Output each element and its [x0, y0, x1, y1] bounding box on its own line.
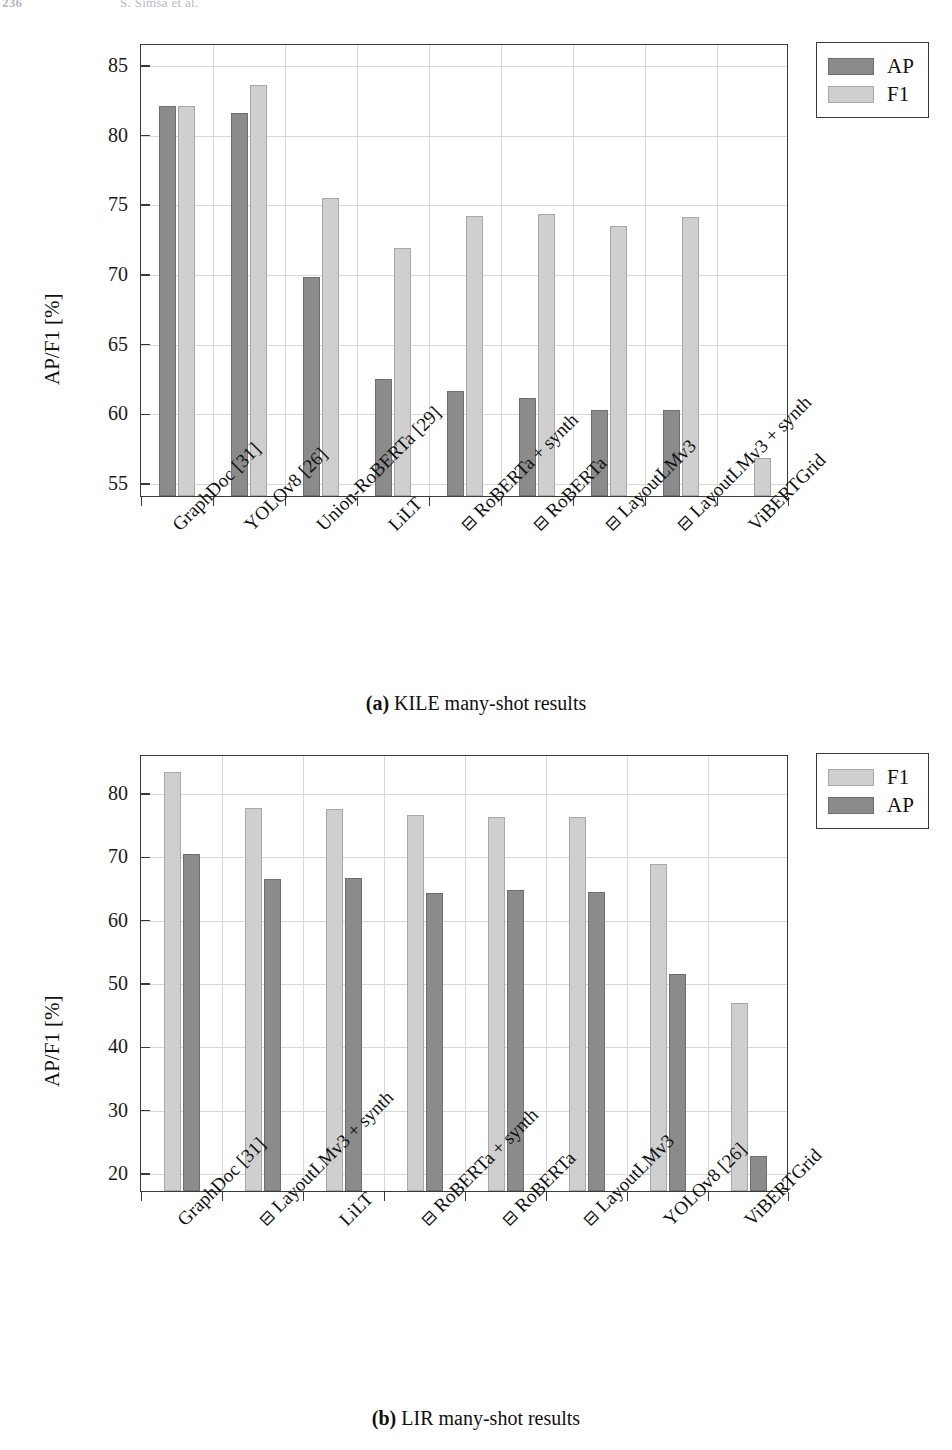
legend-label-ap: AP	[887, 56, 914, 77]
bar-f1	[250, 85, 267, 496]
x-gridline	[213, 45, 214, 496]
y-axis-title-lir: AP/F1 [%]	[40, 995, 65, 1087]
bar-ap	[447, 391, 464, 496]
y-gridline	[141, 921, 787, 922]
y-tick-label: 60	[108, 403, 128, 423]
figure-caption-lir: (b) LIR many-shot results	[0, 1407, 952, 1430]
legend-entry-f1: F1	[828, 763, 914, 791]
y-tick-mark	[141, 793, 150, 795]
x-gridline	[645, 45, 646, 496]
bar-ap	[426, 893, 443, 1191]
y-gridline	[141, 1111, 787, 1112]
x-tick-mark	[429, 497, 430, 506]
x-gridline	[708, 756, 709, 1191]
bar-ap	[159, 106, 176, 496]
y-tick-label: 20	[108, 1163, 128, 1183]
y-tick-mark	[141, 920, 150, 922]
legend-lir: F1 AP	[816, 753, 929, 829]
bar-f1	[610, 226, 627, 496]
y-tick-label: 65	[108, 334, 128, 354]
plot-area-lir	[140, 755, 788, 1192]
legend-entry-ap: AP	[828, 791, 914, 819]
y-gridline	[141, 984, 787, 985]
y-tick-label: 50	[108, 973, 128, 993]
bar-f1	[407, 815, 424, 1191]
running-header: 236 Š. Šimsa et al.	[0, 0, 952, 11]
x-gridline	[357, 45, 358, 496]
y-tick-mark	[141, 1047, 150, 1049]
y-tick-mark	[141, 483, 150, 485]
y-tick-mark	[141, 204, 150, 206]
y-tick-label: 85	[108, 55, 128, 75]
y-tick-mark	[141, 344, 150, 346]
y-tick-label: 70	[108, 846, 128, 866]
document-box-icon: ⊟	[457, 511, 481, 535]
y-gridline	[141, 66, 787, 67]
bar-ap	[231, 113, 248, 496]
bar-ap	[588, 892, 605, 1191]
legend-entry-f1: F1	[828, 80, 914, 108]
y-tick-mark	[141, 135, 150, 137]
bar-ap	[669, 974, 686, 1191]
y-gridline	[141, 1047, 787, 1048]
y-axis-title-kile: AP/F1 [%]	[40, 293, 65, 385]
document-box-icon: ⊟	[497, 1206, 521, 1230]
x-gridline	[501, 45, 502, 496]
document-box-icon: ⊟	[673, 511, 697, 535]
y-tick-label: 75	[108, 194, 128, 214]
x-gridline	[465, 756, 466, 1191]
y-tick-mark	[141, 1173, 150, 1175]
x-tick-mark	[141, 497, 142, 506]
legend-swatch-f1-icon	[828, 86, 874, 103]
document-box-icon: ⊟	[254, 1206, 278, 1230]
legend-swatch-ap-icon	[828, 797, 874, 814]
x-gridline	[546, 756, 547, 1191]
y-tick-label: 55	[108, 473, 128, 493]
x-axis-label: LiLT	[384, 493, 427, 536]
document-box-icon: ⊟	[601, 511, 625, 535]
page-folio: 236	[2, 0, 22, 11]
x-gridline	[627, 756, 628, 1191]
document-box-icon: ⊟	[578, 1206, 602, 1230]
running-authors: Š. Šimsa et al.	[120, 0, 199, 11]
plot-area-kile	[140, 44, 788, 497]
bar-ap	[750, 1156, 767, 1191]
y-tick-mark	[141, 983, 150, 985]
caption-tag-a: (a)	[366, 692, 389, 714]
document-box-icon: ⊟	[416, 1206, 440, 1230]
bar-f1	[569, 817, 586, 1191]
x-gridline	[384, 756, 385, 1191]
legend-entry-ap: AP	[828, 52, 914, 80]
bar-ap	[183, 854, 200, 1191]
y-tick-label: 30	[108, 1100, 128, 1120]
legend-label-f1: F1	[887, 84, 909, 105]
legend-label-ap: AP	[887, 795, 914, 816]
x-gridline	[717, 45, 718, 496]
legend-swatch-f1-icon	[828, 769, 874, 786]
y-tick-mark	[141, 414, 150, 416]
y-tick-label: 80	[108, 125, 128, 145]
y-tick-mark	[141, 857, 150, 859]
caption-text-a: KILE many-shot results	[394, 692, 586, 714]
legend-label-f1: F1	[887, 767, 909, 788]
figure-kile-many-shot: AP/F1 [%] AP F1 (a) KILE many-shot resul…	[0, 30, 952, 720]
y-tick-label: 80	[108, 783, 128, 803]
x-gridline	[303, 756, 304, 1191]
figure-caption-kile: (a) KILE many-shot results	[0, 692, 952, 715]
document-box-icon: ⊟	[529, 511, 553, 535]
y-tick-label: 40	[108, 1036, 128, 1056]
figure-lir-many-shot: AP/F1 [%] F1 AP (b) LIR many-shot result…	[0, 742, 952, 1450]
x-tick-mark	[141, 1192, 142, 1201]
bar-f1	[164, 772, 181, 1191]
bar-f1	[178, 106, 195, 496]
y-tick-mark	[141, 65, 150, 67]
y-tick-mark	[141, 274, 150, 276]
y-gridline	[141, 857, 787, 858]
x-tick-mark	[384, 1192, 385, 1201]
y-gridline	[141, 794, 787, 795]
bar-f1	[466, 216, 483, 496]
y-tick-mark	[141, 1110, 150, 1112]
legend-swatch-ap-icon	[828, 58, 874, 75]
legend-kile: AP F1	[816, 42, 929, 118]
caption-tag-b: (b)	[372, 1407, 396, 1429]
